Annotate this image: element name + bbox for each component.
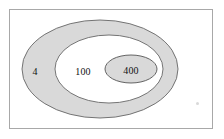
concentric-ellipse-figure: 4 100 400 [0, 0, 224, 139]
outer-region-label: 4 [32, 66, 37, 77]
middle-region-label: 100 [75, 66, 91, 77]
scan-artifact-speck [196, 102, 199, 105]
inner-region-label: 400 [123, 65, 139, 76]
